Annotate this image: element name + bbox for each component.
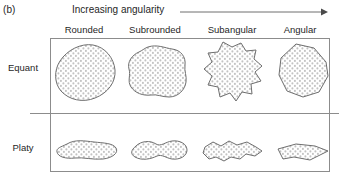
- grain-equant-subrounded: [124, 44, 190, 102]
- row-divider-rule: [30, 113, 339, 114]
- grain-equant-rounded: [52, 42, 118, 104]
- row-label-equant: Equant: [0, 62, 46, 73]
- row-label-platy: Platy: [0, 142, 46, 153]
- grain-equant-angular: [276, 42, 332, 100]
- grain-platy-subangular: [200, 138, 264, 166]
- panel-label: (b): [3, 4, 16, 15]
- column-header-subrounded: Subrounded: [129, 24, 181, 35]
- column-header-rounded: Rounded: [65, 24, 104, 35]
- column-header-angular: Angular: [284, 24, 317, 35]
- grain-platy-rounded: [55, 138, 119, 164]
- grain-shape-angularity-figure: (b) Increasing angularity Rounded Subrou…: [0, 0, 339, 180]
- column-header-subangular: Subangular: [208, 24, 257, 35]
- grain-equant-subangular: [201, 40, 265, 104]
- grain-platy-subrounded: [127, 138, 189, 164]
- right-arrow-icon: [180, 4, 328, 16]
- grain-platy-angular: [274, 140, 330, 164]
- increasing-angularity-caption: Increasing angularity: [72, 4, 164, 15]
